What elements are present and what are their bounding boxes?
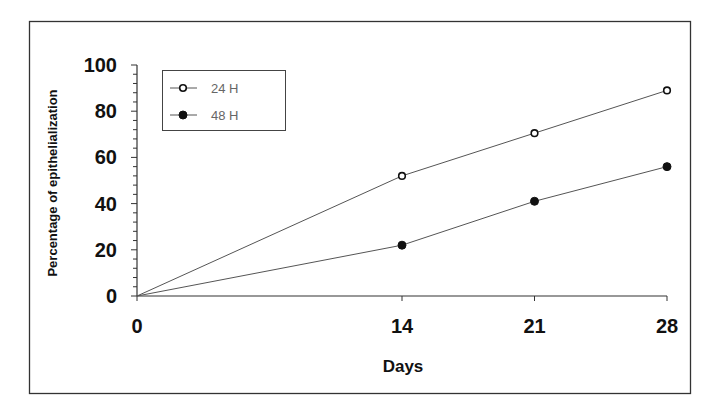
y-axis-title: Percentage of epithelialization [45,89,60,276]
chart: 020406080100 0142128 Percentage of epith… [0,0,715,415]
filled-circle-marker [663,163,671,171]
y-tick-label: 100 [84,54,117,76]
open-circle-icon [180,85,187,92]
filled-circle-icon [179,111,187,119]
legend: 24 H48 H [163,71,286,131]
x-tick-label: 21 [523,315,545,337]
open-circle-marker [531,130,538,137]
x-axis-title: Days [383,357,424,376]
x-tick-label: 28 [656,315,678,337]
legend-label: 48 H [211,108,238,123]
filled-circle-marker [398,241,406,249]
filled-circle-marker [531,197,539,205]
legend-label: 24 H [211,81,238,96]
y-tick-label: 80 [95,100,117,122]
open-circle-marker [399,173,406,180]
y-tick-label: 40 [95,193,117,215]
outer-frame [30,22,691,394]
open-circle-marker [664,87,671,94]
y-tick-label: 0 [106,285,117,307]
y-tick-label: 60 [95,146,117,168]
x-tick-label: 0 [131,315,142,337]
y-tick-label: 20 [95,239,117,261]
x-tick-label: 14 [391,315,414,337]
